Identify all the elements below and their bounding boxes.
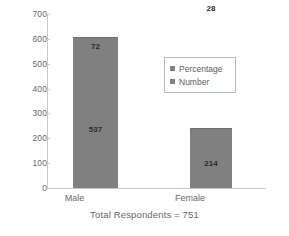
legend-item-number[interactable]: Number [170, 75, 235, 88]
y-tick-label-100: 100 [3, 159, 47, 168]
chart-legend: Percentage Number [164, 57, 236, 93]
bar-female-top-edge [190, 128, 232, 129]
plot-area: 72 537 214 28 [47, 14, 266, 188]
x-axis-label-female: Female [169, 193, 211, 204]
bar-female-percentage-label: 28 [190, 4, 232, 13]
bar-female[interactable]: 214 [190, 128, 232, 188]
bar-male-number-label: 537 [73, 125, 118, 134]
legend-label-number: Number [179, 77, 209, 87]
bar-male-percentage-label: 72 [73, 42, 118, 51]
y-tick-label-700: 700 [3, 10, 47, 19]
y-tick-label-300: 300 [3, 109, 47, 118]
y-tick-label-500: 500 [3, 60, 47, 69]
bar-chart: 700 600 500 400 300 200 100 0 72 537 214 [0, 0, 289, 236]
legend-swatch-icon-percentage [170, 66, 175, 71]
legend-item-percentage[interactable]: Percentage [170, 62, 235, 75]
y-axis-tick-labels: 700 600 500 400 300 200 100 0 [0, 0, 47, 236]
bar-female-number-label: 214 [190, 159, 232, 168]
y-tick-label-600: 600 [3, 35, 47, 44]
legend-swatch-icon-number [170, 79, 175, 84]
y-tick-label-200: 200 [3, 134, 47, 143]
legend-label-percentage: Percentage [179, 64, 222, 74]
bar-male-top-edge [73, 37, 118, 38]
y-tick-label-400: 400 [3, 85, 47, 94]
x-axis-label-male: Male [52, 193, 97, 204]
bar-male[interactable]: 72 537 [73, 37, 118, 188]
y-tick-label-0: 0 [3, 184, 47, 193]
x-axis-title: Total Respondents = 751 [0, 209, 289, 221]
x-axis-line [47, 188, 266, 189]
